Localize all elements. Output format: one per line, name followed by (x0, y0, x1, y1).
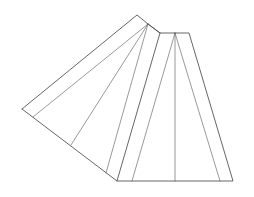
diagram-canvas (0, 0, 254, 197)
outline-path (22, 15, 233, 181)
fold-line (33, 24, 148, 117)
fold-line (148, 24, 160, 33)
fold-line (71, 24, 148, 145)
fold-line (175, 33, 220, 181)
fold-line (106, 24, 148, 173)
folded-fan-shape (22, 15, 233, 181)
